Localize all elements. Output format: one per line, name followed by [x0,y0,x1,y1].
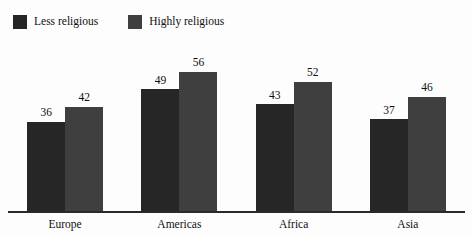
bar-value-label: 49 [141,75,179,87]
bar-value-label: 52 [294,67,332,79]
chart-legend: Less religious Highly religious [13,14,224,30]
bar-africa-highly-religious: 52 [294,48,332,211]
bar-asia-highly-religious: 46 [408,48,446,211]
x-axis-category-labels: EuropeAmericasAfricaAsia [8,216,465,236]
bar-value-label: 37 [370,105,408,117]
category-label-asia: Asia [348,216,468,232]
category-label-europe: Europe [5,216,125,232]
legend-item-less-religious: Less religious [13,15,98,29]
bar-europe-less-religious: 36 [27,48,65,211]
bar-rect [256,104,294,211]
legend-label-less-religious: Less religious [34,16,98,28]
legend-swatch-less-religious [13,15,27,29]
bar-group-asia: 3746 [370,48,446,211]
bar-europe-highly-religious: 42 [65,48,103,211]
bar-value-label: 46 [408,82,446,94]
bar-rect [65,107,103,211]
bar-group-africa: 4352 [256,48,332,211]
bar-americas-less-religious: 49 [141,48,179,211]
bar-rect [141,89,179,211]
bar-value-label: 43 [256,90,294,102]
bar-rect [370,119,408,211]
bar-value-label: 56 [179,57,217,69]
bar-rect [408,97,446,211]
bar-value-label: 42 [65,92,103,104]
category-label-americas: Americas [119,216,239,232]
bar-rect [179,72,217,211]
bar-value-label: 36 [27,107,65,119]
bar-group-europe: 3642 [27,48,103,211]
bar-group-americas: 4956 [141,48,217,211]
bar-americas-highly-religious: 56 [179,48,217,211]
legend-swatch-highly-religious [128,15,142,29]
plot-area: 3642495643523746 [8,48,465,211]
category-label-africa: Africa [234,216,354,232]
bar-rect [294,82,332,211]
bar-chart: Less religious Highly religious 36424956… [0,0,473,238]
legend-label-highly-religious: Highly religious [149,16,224,28]
legend-item-highly-religious: Highly religious [128,15,224,29]
bar-asia-less-religious: 37 [370,48,408,211]
x-axis-line [8,211,465,213]
bar-rect [27,122,65,211]
bar-africa-less-religious: 43 [256,48,294,211]
